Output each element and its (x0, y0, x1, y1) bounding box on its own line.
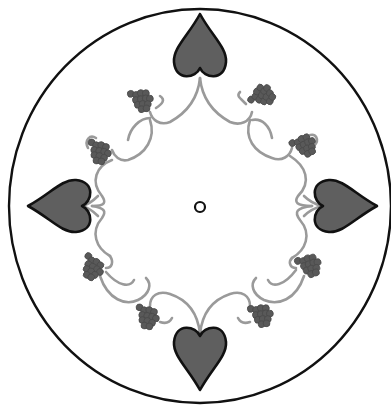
grape-cluster-lower-left (75, 251, 108, 284)
heart-top (174, 14, 226, 76)
heart-bottom (174, 328, 226, 390)
heart-left (28, 180, 90, 232)
ornamental-medallion (0, 0, 391, 412)
center-ring-icon (195, 202, 205, 212)
heart-right (315, 180, 377, 232)
grape-cluster-bottom-right (247, 302, 276, 330)
grape-cluster-top-left (127, 87, 156, 115)
grape-cluster-top-right (246, 79, 279, 112)
grape-cluster-bottom-left (133, 303, 162, 331)
